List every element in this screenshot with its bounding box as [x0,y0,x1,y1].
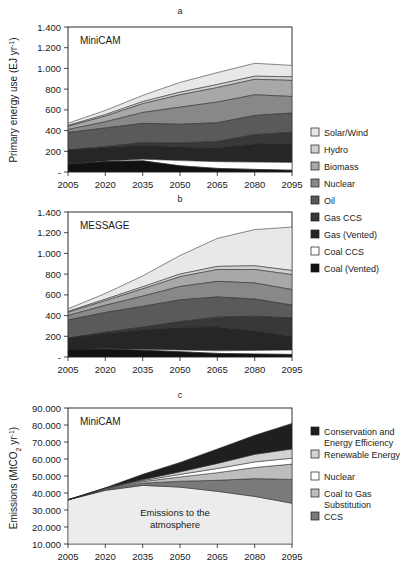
panel-c-ytick-6: 30.000 [32,505,61,516]
panel-a-ytick-4: 600 [45,104,61,115]
panel-b-ytick-0: 1.400 [37,207,61,218]
legend-item-oil: Oil [311,196,335,206]
energy-legend: Solar/Wind Hydro Biomass Nuclear Oil Gas… [311,128,379,274]
panel-a-xtick-0: 2005 [57,179,78,190]
legend-swatch-coal-to-gas [311,489,319,497]
legend-swatch-coal-vented [311,264,319,272]
legend-label-oil: Oil [324,196,335,206]
panel-b-y-ticks: 1.400 1.200 1.000 800 600 400 200 - [37,207,68,363]
legend-swatch-gas-ccs [311,213,319,221]
panel-c-model-label: MiniCAM [80,416,121,427]
panel-c-ytick-0: 90.000 [32,403,61,414]
panel-b-xtick-1: 2020 [95,364,116,375]
legend-item-nuclear: Nuclear [311,179,355,189]
legend-swatch-oil [311,196,319,204]
panel-c-ytick-7: 20.000 [32,522,61,533]
legend-label-conservation-1: Conservation and [324,427,395,437]
legend-label-conservation-2: Energy Efficiency [324,438,394,448]
panel-a-y-axis-title: Primary energy use (EJ yr-1) [8,37,20,162]
panel-c-xtick-3: 2050 [169,551,190,562]
panel-a-xtick-2: 2035 [132,179,153,190]
legend-swatch-nuclear [311,179,319,187]
panel-b-ytick-6: 200 [45,331,61,342]
legend-swatch-nuclear-wedge [311,472,319,480]
panel-b-xtick-0: 2005 [57,364,78,375]
legend-label-renewable-energy: Renewable Energy [324,450,401,460]
panel-c-ytick-5: 40.000 [32,488,61,499]
panel-c-ytick-3: 60.000 [32,454,61,465]
legend-item-hydro: Hydro [311,145,348,155]
panel-c-annotation-line2: atmosphere [150,519,200,530]
figure-container: a Primary energy use (EJ yr-1) [0,0,414,581]
legend-label-coal-to-gas-2: Substitution [324,500,371,510]
panel-b-ytick-4: 600 [45,289,61,300]
panel-a-letter: a [177,6,182,16]
legend-item-coal-to-gas: Coal to Gas Substitution [311,489,372,510]
legend-label-coal-to-gas-1: Coal to Gas [324,489,372,499]
panel-a-xtick-5: 2080 [244,179,265,190]
panel-a-x-ticks: 2005 2020 2035 2050 2065 2080 2095 [57,172,302,190]
panel-a-ytick-5: 400 [45,125,61,136]
legend-label-gas-ccs: Gas CCS [324,213,362,223]
panel-b-xtick-2: 2035 [132,364,153,375]
legend-swatch-ccs [311,512,319,520]
panel-b-ytick-3: 800 [45,269,61,280]
legend-label-nuclear: Nuclear [324,179,355,189]
legend-label-hydro: Hydro [324,145,348,155]
panel-b-x-ticks: 2005 2020 2035 2050 2065 2080 2095 [57,357,302,375]
legend-label-biomass: Biomass [324,162,359,172]
legend-label-nuclear-wedge: Nuclear [324,472,355,482]
panel-c-letter: c [178,390,183,400]
wedge-legend: Conservation and Energy Efficiency Renew… [311,427,401,522]
panel-b-ytick-1: 1.200 [37,227,61,238]
panel-c-x-ticks: 2005 2020 2035 2050 2065 2080 2095 [57,544,302,562]
legend-item-renewable-energy: Renewable Energy [311,450,401,460]
panel-a-ytick-2: 1.000 [37,63,61,74]
panel-b-letter: b [177,194,182,204]
legend-item-nuclear-wedge: Nuclear [311,472,355,482]
panel-b-xtick-5: 2080 [244,364,265,375]
panel-c-xtick-5: 2080 [244,551,265,562]
panel-c-xtick-6: 2095 [281,551,302,562]
panel-b-ytick-5: 400 [45,310,61,321]
panel-a-ytick-3: 800 [45,84,61,95]
panel-c-ytick-1: 80.000 [32,420,61,431]
legend-swatch-renewable-energy [311,450,319,458]
panel-a-model-label: MiniCAM [80,35,121,46]
legend-label-gas-vented: Gas (Vented) [324,230,377,240]
legend-swatch-conservation [311,427,319,435]
panel-b-xtick-3: 2050 [169,364,190,375]
legend-item-gas-vented: Gas (Vented) [311,230,377,240]
panel-a: a Primary energy use (EJ yr-1) [8,6,303,190]
legend-swatch-biomass [311,162,319,170]
panel-c-ytick-2: 70.000 [32,437,61,448]
panel-c-xtick-0: 2005 [57,551,78,562]
panel-a-ytick-6: 200 [45,146,61,157]
panel-b-ytick-2: 1.000 [37,248,61,259]
legend-swatch-solar-wind [311,128,319,136]
legend-item-ccs: CCS [311,512,343,522]
panel-a-ytick-7: - [58,167,61,178]
legend-label-coal-ccs: Coal CCS [324,247,364,257]
panel-a-xtick-1: 2020 [95,179,116,190]
panel-c-xtick-4: 2065 [207,551,228,562]
figure-svg: a Primary energy use (EJ yr-1) [0,0,414,581]
panel-a-ytick-0: 1.400 [37,22,61,33]
panel-a-xtick-6: 2095 [281,179,302,190]
panel-b-model-label: MESSAGE [80,220,130,231]
panel-c: c Emissions (MtCO2 yr-1) Emissions to th… [8,390,303,562]
legend-label-ccs: CCS [324,512,343,522]
panel-b-xtick-6: 2095 [281,364,302,375]
legend-label-solar-wind: Solar/Wind [324,128,368,138]
panel-c-y-axis-title: Emissions (MtCO2 yr-1) [8,427,22,529]
panel-a-xtick-4: 2065 [207,179,228,190]
panel-c-ytick-4: 50.000 [32,471,61,482]
panel-a-y-ticks: 1.400 1.200 1.000 800 600 400 200 - [37,22,68,178]
legend-swatch-hydro [311,145,319,153]
panel-c-ytick-8: 10.000 [32,539,61,550]
legend-item-coal-vented: Coal (Vented) [311,264,379,274]
panel-c-xtick-2: 2035 [132,551,153,562]
panel-a-xtick-3: 2050 [169,179,190,190]
panel-b-ytick-7: - [58,352,61,363]
panel-a-ytick-1: 1.200 [37,42,61,53]
